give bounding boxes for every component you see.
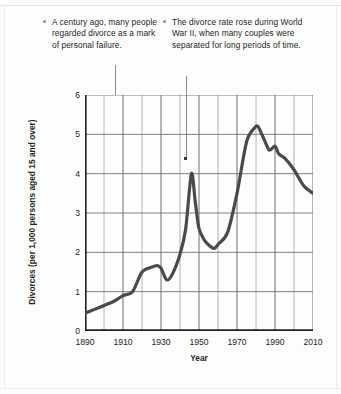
figure-border-top [0,5,341,6]
y-axis-tick-label: 6 [64,90,80,100]
y-axis-tick-label: 1 [64,287,80,297]
y-axis-title: Divorces (per 1,000 persons aged 15 and … [27,107,37,317]
y-axis-tick-label: 4 [64,169,80,179]
annotation-2-text: The divorce rate rose during World War I… [172,17,313,51]
bullet-marker-icon [163,20,166,23]
plot-svg [85,95,313,331]
x-axis-tick-label: 2010 [291,337,335,347]
bullet-marker-icon [43,20,46,23]
figure-border-left [4,5,5,389]
y-axis-tick-label: 0 [64,326,80,336]
figure-border-right [336,5,337,389]
figure-border-bottom [0,388,341,389]
y-axis-tick-label: 5 [64,129,80,139]
y-axis-tick-label: 3 [64,208,80,218]
annotation-1-text: A century ago, many people regarded divo… [52,17,163,51]
plot-area [85,95,313,331]
x-axis-tick-labels: 1890191019301950197019902010 [85,337,313,351]
annotation-callout-2: The divorce rate rose during World War I… [163,17,313,51]
annotation-callout-1: A century ago, many people regarded divo… [43,17,163,51]
chart-figure: A century ago, many people regarded divo… [0,0,341,394]
annotation-1-leader-line [115,65,116,95]
y-axis-tick-label: 2 [64,247,80,257]
x-axis-title: Year [85,353,313,363]
y-axis-tick-labels: 0123456 [62,95,80,331]
